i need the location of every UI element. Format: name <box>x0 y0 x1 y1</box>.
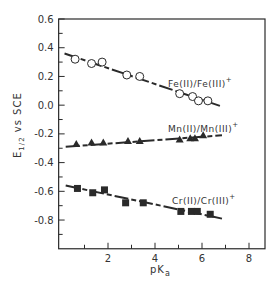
triangle-marker <box>99 138 107 145</box>
x-tick-label: 4 <box>152 253 158 264</box>
series-label-cr: Cr(II)/Cr(III)+ <box>172 193 236 206</box>
square-marker <box>177 208 184 215</box>
circle-marker <box>176 90 184 98</box>
square-marker <box>207 211 214 218</box>
square-marker <box>140 199 147 206</box>
circle-marker <box>136 72 144 80</box>
circle-marker <box>204 97 212 105</box>
y-tick-label: -0.8 <box>34 215 54 226</box>
y-tick-label: -0.4 <box>34 157 54 168</box>
triangle-marker <box>88 138 96 145</box>
square-marker <box>122 199 129 206</box>
triangle-marker <box>72 140 80 147</box>
y-axis-title: E1/2 vs SCE <box>12 92 26 158</box>
circle-marker <box>123 71 131 79</box>
circle-marker <box>194 97 202 105</box>
series-label-fe: Fe(II)/Fe(III)+ <box>168 76 232 89</box>
y-tick-label: 0.6 <box>38 14 54 25</box>
x-tick-label: 8 <box>246 253 252 264</box>
y-tick-label: 0.2 <box>38 71 54 82</box>
circle-marker <box>98 58 106 66</box>
x-tick-label: 2 <box>105 253 111 264</box>
series-label-mn: Mn(II)/Mn(III)+ <box>168 121 239 134</box>
square-marker <box>101 186 108 193</box>
square-marker <box>194 208 201 215</box>
y-tick-label: -0.2 <box>34 128 54 139</box>
y-tick-label: -0.6 <box>34 186 54 197</box>
y-tick-label: 0.4 <box>38 42 54 53</box>
square-marker <box>89 189 96 196</box>
x-axis-title: pKa <box>150 264 171 278</box>
y-axis-ticks: 0.60.40.20.0-0.2-0.4-0.6-0.8 <box>34 14 65 235</box>
square-marker <box>74 185 81 192</box>
x-axis-ticks: 2468 <box>85 243 253 264</box>
plot-frame <box>59 19 265 249</box>
plot-border <box>59 19 265 249</box>
x-tick-label: 6 <box>199 253 205 264</box>
circle-marker <box>71 55 79 63</box>
triangle-marker <box>124 137 132 144</box>
chart: 0.60.40.20.0-0.2-0.4-0.6-0.8 2468 Fe(II)… <box>0 0 275 282</box>
y-tick-label: 0.0 <box>38 100 54 111</box>
circle-marker <box>88 60 96 68</box>
